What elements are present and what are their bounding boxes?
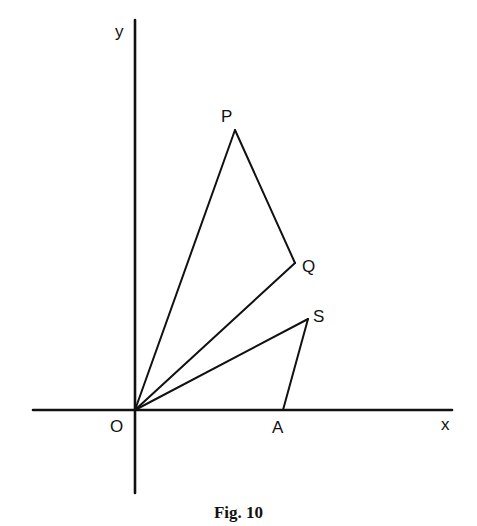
point-label-q: Q bbox=[302, 257, 315, 276]
segment-oq bbox=[135, 263, 295, 410]
figure-caption: Fig. 10 bbox=[0, 503, 477, 523]
y-axis-label: y bbox=[115, 22, 124, 41]
x-axis-label: x bbox=[441, 415, 450, 434]
segment-op bbox=[135, 130, 235, 410]
point-label-p: P bbox=[221, 107, 232, 126]
point-label-o: O bbox=[110, 417, 123, 436]
point-label-s: S bbox=[313, 307, 324, 326]
geometry-figure: y x O P Q S A bbox=[0, 0, 477, 526]
point-label-a: A bbox=[272, 418, 284, 437]
segment-pq bbox=[235, 130, 295, 263]
segment-os bbox=[135, 319, 308, 410]
segment-sa bbox=[283, 319, 308, 410]
